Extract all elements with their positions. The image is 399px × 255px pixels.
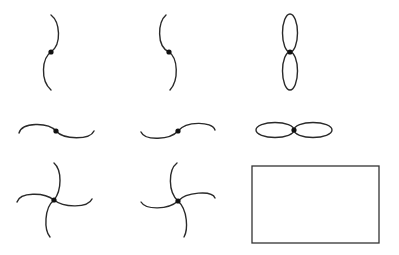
left-arc [19, 124, 56, 133]
pinwheel-counterclockwise [141, 163, 215, 237]
vertex-dot [51, 197, 56, 202]
right-arc [178, 123, 215, 131]
pinwheel-clockwise [17, 163, 92, 237]
vertex-dot [48, 49, 53, 54]
vertex-dot [175, 128, 180, 133]
left-arc [141, 131, 178, 138]
upper-loop [283, 14, 298, 52]
top-arm [54, 163, 60, 200]
lower-arc [169, 52, 176, 90]
vertex-dot [53, 128, 58, 133]
upper-arc [160, 15, 169, 52]
vertex-dot [291, 127, 296, 132]
right-arc [56, 131, 94, 138]
right-loop [294, 123, 332, 138]
horizontal-figure-eight [256, 123, 332, 138]
left-loop [256, 123, 294, 138]
left-arm [141, 201, 178, 208]
right-arm [178, 193, 215, 201]
right-arm [54, 199, 92, 206]
horizontal-s-curve [19, 124, 94, 137]
diagram-canvas [0, 0, 399, 255]
vertex-dot [166, 49, 171, 54]
vertical-s-curve [43, 15, 58, 90]
upper-arc [51, 15, 59, 52]
horizontal-reverse-s-curve [141, 123, 215, 138]
vertex-dot [287, 49, 292, 54]
bottom-arm [178, 201, 186, 237]
lower-loop [283, 52, 298, 90]
lower-arc [43, 52, 51, 90]
vertical-figure-eight [283, 14, 298, 90]
left-arm [17, 194, 54, 202]
top-arm [170, 163, 178, 201]
vertex-dot [175, 198, 180, 203]
empty-rectangle [252, 166, 379, 243]
bottom-arm [46, 200, 54, 237]
vertical-reverse-s-curve [160, 15, 177, 90]
